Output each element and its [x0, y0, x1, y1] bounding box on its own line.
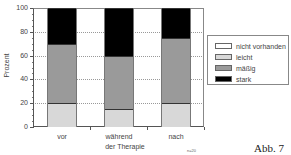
figure-label: Abb. 7	[254, 142, 284, 154]
legend-label: mäßig	[236, 65, 255, 72]
y-tick-label: 40	[6, 75, 28, 82]
bar-0	[47, 8, 77, 127]
y-tick-mark	[30, 127, 34, 128]
legend-label: nicht vorhanden	[236, 43, 286, 50]
y-tick-label: 20	[6, 99, 28, 106]
legend-swatch	[215, 54, 232, 60]
legend-swatch	[215, 65, 232, 71]
bar-segment-stark	[162, 8, 190, 38]
y-tick-label: 60	[6, 52, 28, 59]
bar-segment-mäßig	[48, 44, 76, 104]
legend-swatch	[215, 43, 232, 49]
bar-segment-mäßig	[162, 38, 190, 103]
y-tick-label: 0	[6, 123, 28, 130]
legend-item: mäßig	[215, 64, 255, 72]
x-tick-mark	[90, 127, 91, 130]
legend-label: stark	[236, 76, 251, 83]
bar-segment-leicht	[105, 109, 133, 127]
legend-item: stark	[215, 75, 251, 83]
x-category-label: vor	[37, 133, 87, 140]
x-tick-mark	[147, 127, 148, 130]
y-tick-label: 80	[6, 28, 28, 35]
bar-segment-stark	[48, 8, 76, 44]
bar-segment-mäßig	[105, 56, 133, 110]
bar-segment-leicht	[162, 103, 190, 127]
x-tick-mark	[204, 127, 205, 130]
legend-label: leicht	[236, 54, 252, 61]
sample-size-note: n=20	[187, 148, 196, 153]
bar-2	[161, 8, 191, 127]
legend-item: leicht	[215, 53, 252, 61]
x-axis-title: der Therapie	[95, 143, 155, 150]
legend-swatch	[215, 76, 232, 82]
legend: nicht vorhandenleichtmäßigstark	[207, 35, 289, 85]
x-category-label: während	[94, 133, 144, 140]
x-category-label: nach	[151, 133, 201, 140]
legend-item: nicht vorhanden	[215, 42, 286, 50]
y-tick-label: 100	[6, 4, 28, 11]
bar-segment-stark	[105, 8, 133, 56]
bar-1	[104, 8, 134, 127]
bar-segment-leicht	[48, 103, 76, 127]
